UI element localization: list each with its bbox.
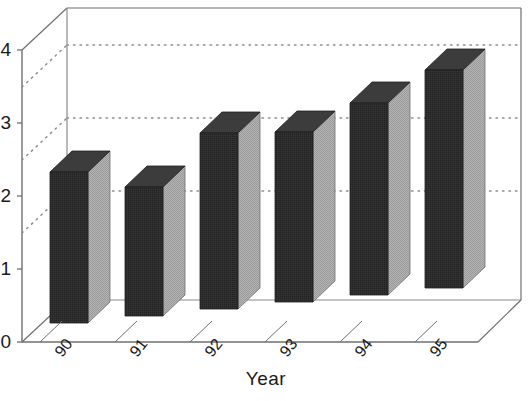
bar-90-side (88, 151, 110, 323)
bar-93-front (275, 132, 313, 302)
bar-92-front (200, 133, 238, 309)
bar-91-front (125, 187, 163, 316)
bar-93 (275, 111, 335, 302)
bar-95-side (463, 49, 485, 288)
y-tick-label-1: 1 (0, 259, 11, 278)
y-tick-label-3: 3 (0, 113, 11, 132)
bar-95-front (425, 70, 463, 288)
chart-canvas (0, 0, 532, 401)
y-axis-ticks (17, 50, 22, 342)
bar-95 (425, 49, 485, 288)
bar-94-side (388, 82, 410, 295)
bar-94-front (350, 103, 388, 295)
bar-92 (200, 112, 260, 309)
bar-90 (50, 151, 110, 323)
x-axis-title: Year (0, 368, 532, 390)
y-tick-label-2: 2 (0, 186, 11, 205)
bar-93-side (313, 111, 335, 302)
bar-91 (125, 166, 185, 316)
y-tick-label-4: 4 (0, 40, 11, 59)
y-tick-label-0: 0 (0, 332, 11, 351)
bar-chart-figure: 4 3 2 1 0 90 91 92 93 94 95 Year (0, 0, 532, 401)
bar-91-side (163, 166, 185, 316)
bar-94 (350, 82, 410, 295)
bar-90-front (50, 172, 88, 323)
bar-92-side (238, 112, 260, 309)
